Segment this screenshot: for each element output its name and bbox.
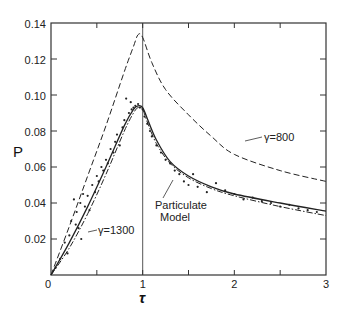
gamma800-leader [245,137,262,141]
data-point [91,184,93,186]
data-point [178,173,180,175]
data-point [164,159,166,161]
data-point [131,108,133,110]
data-point [146,123,148,125]
particulate-label-1: Particulate [155,199,207,211]
x-axis-label: τ [139,289,146,306]
data-point [215,182,217,184]
data-point [107,162,109,164]
data-point [297,207,299,209]
gamma1300-label: γ=1300 [98,224,134,236]
plot-frame [51,23,326,275]
data-points [54,98,317,269]
data-point [197,186,199,188]
data-point [155,144,157,146]
y-tick-008: 0.08 [25,126,46,138]
data-point [187,184,189,186]
data-point [96,175,98,177]
y-tick-002: 0.02 [25,233,46,245]
data-point [174,170,176,172]
data-point [279,206,281,208]
data-point [109,148,111,150]
data-point [70,220,72,222]
data-point [125,98,127,100]
data-point [160,152,162,154]
chart-figure: 0 1 2 3 0.02 0.04 0.06 0.08 0.10 0.12 0.… [0,0,345,316]
data-point [79,202,81,204]
data-point [123,119,125,121]
data-point [307,209,309,211]
data-point [134,105,136,107]
data-point [143,116,145,118]
data-point [206,191,208,193]
data-point [114,141,116,143]
data-point [270,202,272,204]
data-point [102,170,104,172]
data-point [64,242,66,244]
data-point [75,224,77,226]
data-point [242,198,244,200]
data-point [66,252,68,254]
data-point [149,130,151,132]
y-tick-014: 0.14 [25,18,46,30]
data-point [94,191,96,193]
data-point [139,107,141,109]
data-point [224,189,226,191]
data-point [84,206,86,208]
data-point [288,204,290,206]
y-tick-004: 0.04 [25,197,46,209]
data-point [54,267,56,269]
data-point [130,101,132,103]
data-point [169,162,171,164]
gamma1300-leader [88,230,97,232]
data-point [151,135,153,137]
data-point [252,197,254,199]
data-point [88,209,90,211]
data-point [112,152,114,154]
x-tick-0: 0 [45,278,51,290]
x-tick-2: 2 [231,278,237,290]
chart-svg: 0 1 2 3 0.02 0.04 0.06 0.08 0.10 0.12 0.… [0,0,345,316]
data-point [100,166,102,168]
data-point [73,198,75,200]
data-point [77,227,79,229]
data-point [261,200,263,202]
data-point [233,193,235,195]
data-point [98,180,100,182]
data-point [87,195,89,197]
data-point [119,144,121,146]
data-point [105,159,107,161]
y-tick-006: 0.06 [25,161,46,173]
y-tick-012: 0.12 [25,54,46,66]
series-line-dashed [51,34,326,275]
data-point [183,180,185,182]
data-point [137,103,139,105]
particulate-label-2: Model [160,211,190,223]
data-point [121,126,123,128]
data-point [116,134,118,136]
data-point [68,234,70,236]
data-point [142,108,144,110]
particulate-leader [163,180,173,198]
y-tick-010: 0.10 [25,90,46,102]
data-point [192,173,194,175]
data-point [80,238,82,240]
data-point [128,112,130,114]
gamma800-label: γ=800 [264,131,294,143]
data-point [316,211,318,213]
data-point [82,193,84,195]
data-point [132,107,134,109]
x-ticks [97,23,280,275]
y-axis-label: P [13,143,23,160]
data-point [59,258,61,260]
data-point [76,211,78,213]
series-group [51,34,326,275]
x-tick-3: 3 [323,278,329,290]
